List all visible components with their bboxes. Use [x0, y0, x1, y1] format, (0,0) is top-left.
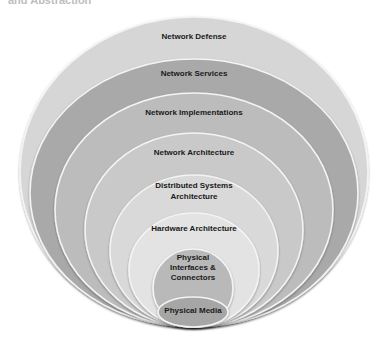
layer-label: Connectors [171, 273, 216, 282]
layer-label: Distributed Systems [155, 181, 233, 190]
layer-physical-media: Physical Media [158, 297, 228, 327]
nested-layers-diagram: Network DefenseNetwork ServicesNetwork I… [0, 0, 388, 342]
layer-label: Network Defense [162, 32, 227, 41]
layer-label: Hardware Architecture [151, 224, 237, 233]
layer-label: Network Services [161, 69, 228, 78]
layer-label: Network Architecture [154, 148, 235, 157]
layer-label: Network Implementations [145, 108, 243, 117]
layer-label: Physical [177, 253, 209, 262]
layer-label: Physical Media [164, 306, 222, 315]
layer-label: Architecture [170, 192, 218, 201]
layer-label: Interfaces & [170, 263, 216, 272]
